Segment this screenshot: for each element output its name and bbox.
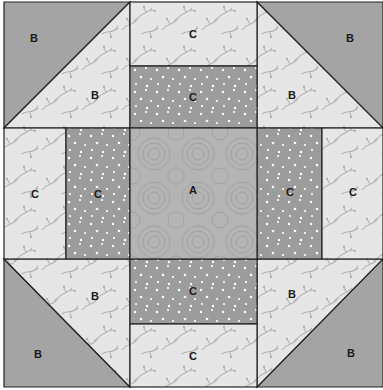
- label-top-outer: C: [189, 28, 197, 40]
- label-bottom-inner: C: [189, 285, 197, 297]
- label-bottom-outer: C: [189, 350, 197, 362]
- label-corner-tr-inner: B: [288, 89, 296, 101]
- corner-top-right: [257, 2, 383, 128]
- label-top-inner: C: [189, 91, 197, 103]
- label-corner-tr-outer: B: [346, 32, 354, 44]
- label-corner-br-outer: B: [347, 347, 355, 359]
- label-center: A: [189, 184, 197, 196]
- label-corner-tl-outer: B: [30, 32, 38, 44]
- label-left-outer: C: [31, 188, 39, 200]
- corner-bottom-left: [4, 259, 130, 387]
- quilt-block-diagram: B B B B B B B B C C C C C C C C A: [0, 0, 383, 390]
- corner-bottom-right: [257, 259, 383, 387]
- label-corner-bl-outer: B: [34, 348, 42, 360]
- label-right-outer: C: [349, 186, 357, 198]
- corner-top-left: [4, 2, 130, 128]
- label-corner-br-inner: B: [288, 288, 296, 300]
- label-right-inner: C: [286, 186, 294, 198]
- label-corner-bl-inner: B: [91, 290, 99, 302]
- label-corner-tl-inner: B: [91, 89, 99, 101]
- label-left-inner: C: [94, 188, 102, 200]
